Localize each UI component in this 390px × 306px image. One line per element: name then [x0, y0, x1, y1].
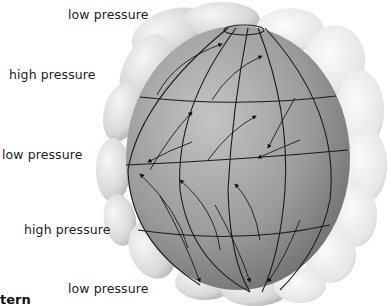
label-low-pressure-bottom: low pressure: [68, 281, 149, 296]
caption-fragment: tern: [0, 292, 31, 306]
label-high-pressure-upper: high pressure: [9, 67, 96, 82]
label-low-pressure-equator: low pressure: [2, 147, 83, 162]
label-low-pressure-top: low pressure: [68, 7, 149, 22]
globe: [126, 25, 350, 292]
label-high-pressure-lower: high pressure: [24, 222, 111, 237]
